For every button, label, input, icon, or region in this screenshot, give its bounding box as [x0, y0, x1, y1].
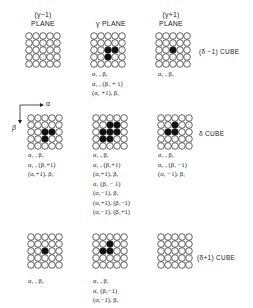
empty-cell — [158, 248, 165, 255]
coord-line: α₁ , β₁ — [158, 150, 187, 160]
dot-grid-icon — [27, 114, 63, 150]
grid-prev-plane-cur-cube — [27, 114, 63, 147]
empty-cell — [100, 143, 107, 150]
empty-cell — [112, 33, 119, 40]
empty-cell — [107, 262, 114, 269]
dot-grid-icon — [92, 233, 128, 269]
empty-cell — [186, 143, 193, 150]
empty-cell — [165, 143, 172, 150]
empty-cell — [165, 115, 172, 122]
empty-cell — [186, 255, 193, 262]
cube-label-current: δ CUBE — [199, 130, 224, 137]
empty-cell — [158, 129, 165, 136]
empty-cell — [91, 54, 98, 61]
filled-cell — [114, 129, 121, 136]
empty-cell — [40, 47, 47, 54]
empty-cell — [40, 33, 47, 40]
empty-cell — [93, 122, 100, 129]
empty-cell — [40, 40, 47, 47]
empty-cell — [119, 47, 126, 54]
empty-cell — [28, 234, 35, 241]
header-prev-plane: (γ−1) PLANE — [22, 10, 64, 28]
grid-next-plane-cur-cube — [157, 114, 193, 147]
empty-cell — [49, 255, 56, 262]
empty-cell — [28, 143, 35, 150]
empty-cell — [179, 262, 186, 269]
empty-cell — [91, 40, 98, 47]
grid-cur-plane-prev-cube — [90, 32, 126, 65]
cube-label-next: (δ+1) CUBE — [197, 254, 235, 261]
empty-cell — [93, 136, 100, 143]
header-next-plane-line2: PLANE — [150, 19, 192, 28]
empty-cell — [26, 61, 33, 68]
empty-cell — [105, 61, 112, 68]
empty-cell — [98, 61, 105, 68]
empty-cell — [165, 255, 172, 262]
empty-cell — [165, 234, 172, 241]
empty-cell — [47, 54, 54, 61]
empty-cell — [54, 61, 61, 68]
empty-cell — [26, 33, 33, 40]
dot-grid-icon — [25, 32, 61, 68]
empty-cell — [33, 54, 40, 61]
empty-cell — [156, 61, 163, 68]
empty-cell — [186, 129, 193, 136]
empty-cell — [119, 40, 126, 47]
empty-cell — [42, 234, 49, 241]
empty-cell — [121, 241, 128, 248]
empty-cell — [28, 241, 35, 248]
empty-cell — [40, 54, 47, 61]
empty-cell — [105, 33, 112, 40]
empty-cell — [165, 241, 172, 248]
filled-cell — [42, 129, 49, 136]
empty-cell — [165, 136, 172, 143]
empty-cell — [121, 234, 128, 241]
filled-cell — [100, 248, 107, 255]
empty-cell — [172, 262, 179, 269]
empty-cell — [100, 255, 107, 262]
empty-cell — [186, 234, 193, 241]
empty-cell — [54, 33, 61, 40]
empty-cell — [177, 54, 184, 61]
empty-cell — [184, 33, 191, 40]
empty-cell — [42, 255, 49, 262]
empty-cell — [114, 262, 121, 269]
empty-cell — [35, 255, 42, 262]
cube-label-prev: (δ −1) CUBE — [199, 48, 239, 55]
empty-cell — [163, 33, 170, 40]
coords-prev-plane-next-cube: α₁ , β₁ — [28, 276, 44, 286]
grid-cur-plane-cur-cube — [92, 114, 128, 147]
coord-line: (α₁+1), β₁ — [28, 169, 55, 179]
empty-cell — [179, 136, 186, 143]
empty-cell — [179, 248, 186, 255]
dot-grid-icon — [157, 114, 193, 150]
empty-cell — [184, 61, 191, 68]
empty-cell — [98, 40, 105, 47]
axis-label-beta: β — [12, 124, 16, 131]
empty-cell — [186, 122, 193, 129]
empty-cell — [179, 255, 186, 262]
empty-cell — [107, 143, 114, 150]
filled-cell — [42, 248, 49, 255]
empty-cell — [93, 115, 100, 122]
empty-cell — [121, 255, 128, 262]
coord-line: α₁ (β₁−1) — [93, 286, 119, 296]
empty-cell — [35, 115, 42, 122]
empty-cell — [172, 248, 179, 255]
dot-grid-icon — [155, 32, 191, 68]
filled-cell — [42, 136, 49, 143]
empty-cell — [158, 255, 165, 262]
coord-line: α₁ , (β₁+1) — [28, 160, 55, 170]
empty-cell — [156, 40, 163, 47]
empty-cell — [35, 136, 42, 143]
empty-cell — [54, 47, 61, 54]
empty-cell — [28, 262, 35, 269]
empty-cell — [163, 47, 170, 54]
empty-cell — [35, 129, 42, 136]
coord-line: α₁ , β₁ — [93, 150, 130, 160]
empty-cell — [114, 234, 121, 241]
empty-cell — [172, 241, 179, 248]
empty-cell — [186, 115, 193, 122]
empty-cell — [47, 33, 54, 40]
empty-cell — [165, 248, 172, 255]
